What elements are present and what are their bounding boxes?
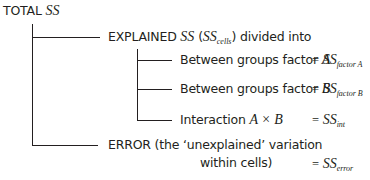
error-line-1: ERROR (the ‘unexplained’ variation: [108, 138, 322, 152]
error-symbol: SS: [323, 156, 337, 171]
cells-subscript: cells: [217, 37, 232, 46]
error-subscript: error: [337, 164, 354, 173]
branch-line-interaction: [137, 120, 172, 121]
interaction-formula: = SSint: [312, 113, 345, 129]
interaction-subscript: int: [337, 120, 345, 129]
interaction-symbol: SS: [323, 112, 337, 127]
equals-sign: =: [312, 82, 319, 96]
error-line-2: within cells): [200, 156, 272, 170]
factor-b-label: Between groups factor: [180, 81, 318, 96]
factor-b-node: Between groups factor B: [180, 82, 330, 96]
interaction-var: A × B: [249, 112, 282, 127]
interaction-label: Interaction: [180, 112, 246, 127]
branch-line-factor-b: [137, 89, 172, 90]
factor-b-symbol: SS: [323, 81, 337, 96]
factor-a-symbol: SS: [323, 52, 337, 67]
explained-label: EXPLAINED: [108, 29, 177, 44]
root-node-total-ss: TOTAL SS: [3, 4, 59, 18]
factor-a-label: Between groups factor: [180, 52, 318, 67]
paren-close: ): [231, 29, 236, 44]
root-label: TOTAL: [3, 3, 42, 18]
trunk-line: [32, 24, 33, 146]
explained-suffix: divided into: [240, 29, 311, 44]
factor-b-formula: = SSfactor B: [312, 82, 363, 98]
interaction-node: Interaction A × B: [180, 113, 283, 127]
branch-line-factor-a: [137, 60, 172, 61]
factor-b-subscript: factor B: [337, 89, 363, 98]
factor-a-node: Between groups factor A: [180, 53, 330, 67]
cells-symbol: SS: [203, 29, 217, 44]
branch-line-explained: [32, 37, 100, 38]
equals-sign: =: [312, 113, 319, 127]
explained-symbol: SS: [180, 29, 194, 44]
root-symbol: SS: [45, 3, 59, 18]
factor-a-formula: = SSfactor A: [312, 53, 363, 69]
explained-node: EXPLAINED SS (SScells) divided into: [108, 30, 311, 46]
factor-a-subscript: factor A: [337, 60, 363, 69]
error-formula: = SSerror: [312, 157, 353, 173]
equals-sign: =: [312, 53, 319, 67]
equals-sign: =: [312, 157, 319, 171]
branch-line-error: [32, 145, 98, 146]
